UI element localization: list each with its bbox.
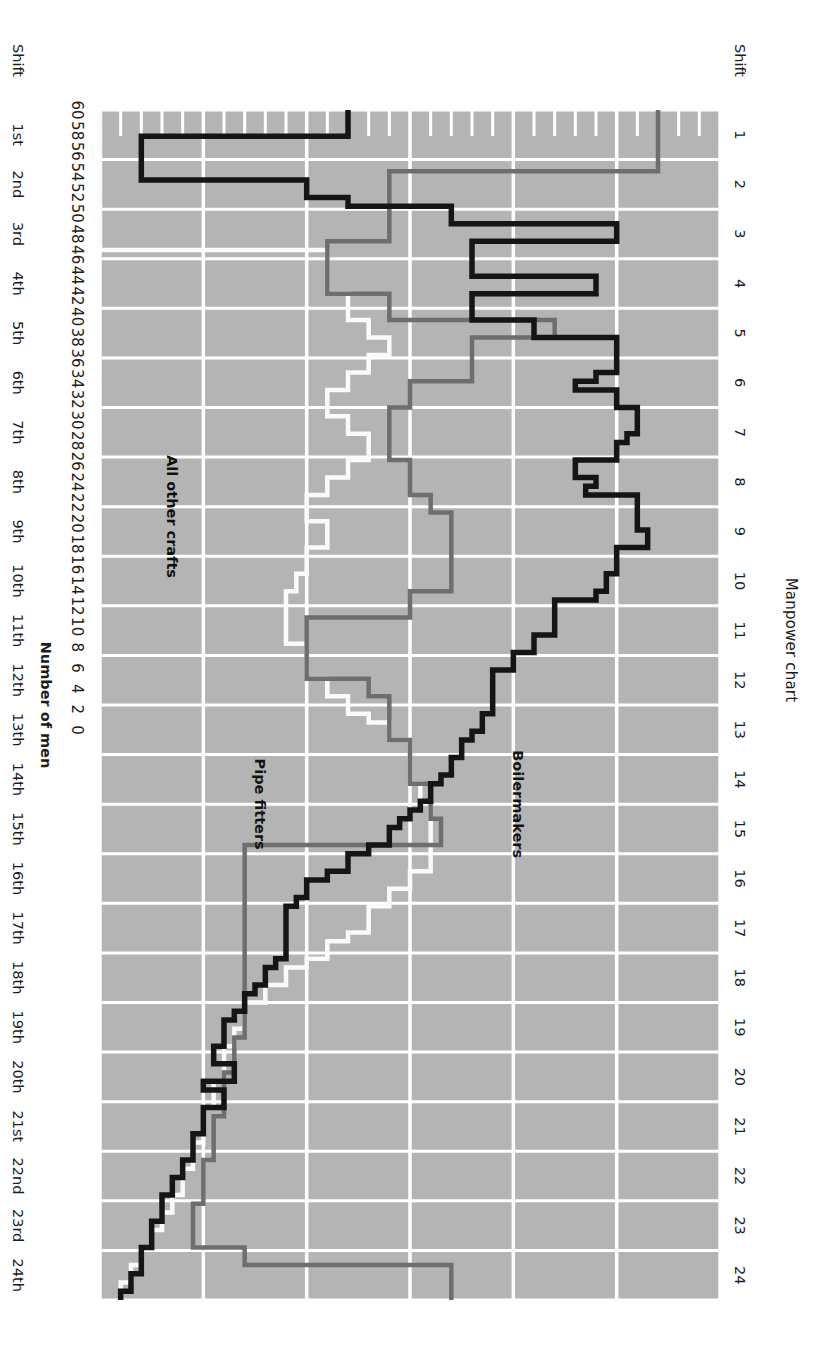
shift-ordinal-tick-15th: 15th: [10, 812, 26, 845]
shift-number-row-label: Shift: [732, 44, 748, 77]
ytick-label-50: 50: [68, 204, 86, 223]
chart-rotation-wrapper: Manpower chart 0246810121416182022242628…: [0, 0, 818, 1368]
ytick-label-42: 42: [68, 286, 86, 305]
shift-number-tick-8: 8: [732, 477, 748, 486]
ytick-label-56: 56: [68, 142, 86, 161]
plot-canvas: [100, 110, 720, 1300]
ytick-label-46: 46: [68, 245, 86, 264]
shift-ordinal-tick-3rd: 3rd: [10, 222, 26, 246]
ytick-label-48: 48: [68, 224, 86, 243]
shift-ordinal-tick-1st: 1st: [10, 124, 26, 146]
ytick-label-30: 30: [68, 410, 86, 429]
shift-number-tick-16: 16: [732, 869, 748, 887]
shift-ordinal-tick-6th: 6th: [10, 371, 26, 395]
ytick-label-6: 6: [68, 663, 86, 673]
ytick-label-54: 54: [68, 162, 86, 181]
shift-ordinal-tick-22nd: 22nd: [10, 1158, 26, 1195]
ytick-label-20: 20: [68, 514, 86, 533]
shift-number-tick-22: 22: [732, 1167, 748, 1185]
shift-ordinal-tick-13th: 13th: [10, 713, 26, 746]
ytick-label-0: 0: [68, 725, 86, 735]
shift-number-tick-3: 3: [732, 229, 748, 238]
shift-number-tick-4: 4: [732, 279, 748, 288]
y-axis-title: Number of men: [38, 642, 54, 769]
ytick-label-40: 40: [68, 307, 86, 326]
ytick-label-16: 16: [68, 555, 86, 574]
shift-ordinal-tick-20th: 20th: [10, 1060, 26, 1093]
shift-ordinal-tick-17th: 17th: [10, 911, 26, 944]
shift-number-tick-15: 15: [732, 820, 748, 838]
ytick-label-4: 4: [68, 684, 86, 694]
shift-number-tick-1: 1: [732, 130, 748, 139]
plot-area: [100, 110, 720, 1300]
shift-number-tick-2: 2: [732, 180, 748, 189]
shift-ordinal-tick-24th: 24th: [10, 1259, 26, 1292]
series-label-pipe-fitters: Pipe fitters: [252, 759, 268, 850]
shift-number-tick-9: 9: [732, 527, 748, 536]
ytick-label-2: 2: [68, 705, 86, 715]
ytick-label-60: 60: [68, 100, 86, 119]
shift-number-tick-19: 19: [732, 1018, 748, 1036]
ytick-label-28: 28: [68, 431, 86, 450]
ytick-label-44: 44: [68, 266, 86, 285]
shift-ordinal-tick-7th: 7th: [10, 420, 26, 444]
shift-ordinal-tick-4th: 4th: [10, 271, 26, 295]
ytick-label-18: 18: [68, 534, 86, 553]
shift-ordinal-row-label: Shift: [10, 44, 26, 77]
shift-number-tick-18: 18: [732, 968, 748, 986]
ytick-label-32: 32: [68, 390, 86, 409]
series-label-all-other-crafts: All other crafts: [164, 455, 180, 578]
shift-number-tick-6: 6: [732, 378, 748, 387]
shift-number-tick-5: 5: [732, 329, 748, 338]
ytick-label-52: 52: [68, 183, 86, 202]
shift-ordinal-tick-19th: 19th: [10, 1011, 26, 1044]
shift-number-tick-10: 10: [732, 572, 748, 590]
ytick-label-12: 12: [68, 596, 86, 615]
shift-number-tick-23: 23: [732, 1216, 748, 1234]
shift-ordinal-tick-23rd: 23rd: [10, 1209, 26, 1242]
shift-number-tick-24: 24: [732, 1266, 748, 1284]
shift-ordinal-tick-9th: 9th: [10, 519, 26, 543]
ytick-label-22: 22: [68, 493, 86, 512]
shift-ordinal-tick-14th: 14th: [10, 763, 26, 796]
shift-ordinal-tick-16th: 16th: [10, 862, 26, 895]
ytick-label-10: 10: [68, 617, 86, 636]
ytick-label-38: 38: [68, 328, 86, 347]
ytick-label-58: 58: [68, 121, 86, 140]
shift-number-tick-21: 21: [732, 1117, 748, 1135]
shift-ordinal-tick-12th: 12th: [10, 664, 26, 697]
ytick-label-24: 24: [68, 472, 86, 491]
shift-ordinal-tick-10th: 10th: [10, 564, 26, 597]
page-title: Manpower chart: [782, 578, 800, 703]
shift-number-tick-13: 13: [732, 721, 748, 739]
ytick-label-36: 36: [68, 348, 86, 367]
ytick-label-14: 14: [68, 576, 86, 595]
shift-number-tick-17: 17: [732, 919, 748, 937]
ytick-label-34: 34: [68, 369, 86, 388]
ytick-label-8: 8: [68, 643, 86, 653]
shift-ordinal-tick-21st: 21st: [10, 1111, 26, 1143]
shift-ordinal-tick-2nd: 2nd: [10, 171, 26, 199]
shift-ordinal-tick-5th: 5th: [10, 321, 26, 345]
shift-number-tick-20: 20: [732, 1068, 748, 1086]
manpower-chart-figure: Manpower chart 0246810121416182022242628…: [0, 0, 818, 1368]
shift-number-tick-14: 14: [732, 770, 748, 788]
shift-number-tick-11: 11: [732, 621, 748, 639]
shift-number-tick-7: 7: [732, 428, 748, 437]
series-label-boilermakers: Boilermakers: [511, 750, 527, 858]
shift-number-tick-12: 12: [732, 671, 748, 689]
shift-ordinal-tick-11th: 11th: [10, 614, 26, 647]
ytick-label-26: 26: [68, 452, 86, 471]
shift-ordinal-tick-18th: 18th: [10, 961, 26, 994]
shift-ordinal-tick-8th: 8th: [10, 470, 26, 494]
